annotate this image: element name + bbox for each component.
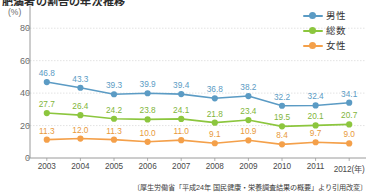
data-point-marker[interactable] (279, 141, 285, 147)
data-point-marker[interactable] (145, 139, 151, 145)
legend-label-female: 女性 (326, 41, 346, 51)
data-label: 9.1 (209, 129, 221, 139)
x-axis-tick-label: 2011 (307, 162, 325, 171)
legend-label-male: 男性 (326, 11, 346, 21)
data-point-marker[interactable] (245, 117, 251, 123)
legend-item-total[interactable]: 総数 (291, 23, 367, 38)
data-point-marker[interactable] (346, 100, 352, 106)
data-label: 26.4 (72, 101, 88, 111)
data-point-marker[interactable] (346, 121, 352, 127)
data-label: 8.4 (276, 130, 288, 140)
data-label: 23.8 (140, 105, 156, 115)
data-point-marker[interactable] (178, 91, 184, 97)
data-label: 32.2 (274, 92, 290, 102)
data-point-marker[interactable] (44, 137, 50, 143)
chart-container: 肥満者の割合の年次推移 (%) 020406080 20032004200520… (0, 0, 371, 193)
data-point-marker[interactable] (313, 102, 319, 108)
data-point-marker[interactable] (313, 139, 319, 145)
data-point-marker[interactable] (111, 91, 117, 97)
data-point-marker[interactable] (111, 137, 117, 143)
data-label: 10.9 (240, 126, 256, 136)
data-point-marker[interactable] (178, 137, 184, 143)
data-label: 9.7 (310, 128, 322, 138)
chart-legend: 男性 総数 女性 (291, 8, 367, 53)
data-label: 39.3 (106, 80, 122, 90)
x-axis-tick-label: 2003 (38, 162, 56, 171)
data-label: 36.8 (207, 84, 223, 94)
data-label: 38.2 (240, 82, 256, 92)
data-label: 43.3 (72, 74, 88, 84)
data-label: 32.4 (308, 91, 324, 101)
x-axis-tick-label: 2012(年) (334, 162, 365, 174)
data-label: 11.3 (39, 126, 55, 136)
source-citation: 〔厚生労働省「平成24年 国民健康・栄養調査結果の概要」より引用改変〕 (133, 182, 367, 192)
data-point-marker[interactable] (77, 85, 83, 91)
data-point-marker[interactable] (346, 140, 352, 146)
x-axis-tick-label: 2010 (273, 162, 291, 171)
data-label: 11.0 (173, 126, 189, 136)
legend-marker-male-icon (303, 11, 323, 20)
data-point-marker[interactable] (145, 116, 151, 122)
series-line (47, 82, 349, 106)
data-point-marker[interactable] (44, 110, 50, 116)
series-line (47, 113, 349, 126)
data-point-marker[interactable] (77, 112, 83, 118)
data-point-marker[interactable] (178, 116, 184, 122)
data-point-marker[interactable] (212, 120, 218, 126)
data-label: 24.2 (106, 105, 122, 115)
x-axis-tick-label: 2006 (138, 162, 156, 171)
data-label: 21.8 (207, 109, 223, 119)
x-axis-tick-label: 2007 (172, 162, 190, 171)
data-label: 46.8 (39, 68, 55, 78)
x-axis-tick-label: 2009 (239, 162, 257, 171)
legend-marker-female-icon (303, 41, 323, 50)
data-label: 20.7 (341, 110, 357, 120)
x-axis-tick-label: 2005 (105, 162, 123, 171)
data-label: 9.0 (343, 129, 355, 139)
data-label: 34.1 (341, 89, 357, 99)
data-point-marker[interactable] (245, 93, 251, 99)
legend-item-female[interactable]: 女性 (291, 38, 367, 53)
data-label: 20.1 (308, 111, 324, 121)
legend-item-male[interactable]: 男性 (291, 8, 367, 23)
data-point-marker[interactable] (279, 103, 285, 109)
data-label: 24.1 (173, 105, 189, 115)
data-point-marker[interactable] (212, 140, 218, 146)
data-point-marker[interactable] (111, 116, 117, 122)
data-label: 19.5 (274, 112, 290, 122)
data-point-marker[interactable] (44, 79, 50, 85)
data-label: 10.0 (140, 128, 156, 138)
data-point-marker[interactable] (279, 123, 285, 129)
x-axis-tick-label: 2008 (206, 162, 224, 171)
data-point-marker[interactable] (145, 90, 151, 96)
x-axis-tick-label: 2004 (71, 162, 89, 171)
data-point-marker[interactable] (245, 137, 251, 143)
data-label: 39.9 (140, 79, 156, 89)
series-line (47, 139, 349, 145)
data-label: 11.3 (106, 126, 122, 136)
data-label: 39.4 (173, 80, 189, 90)
data-label: 27.7 (39, 99, 55, 109)
data-point-marker[interactable] (212, 95, 218, 101)
data-label: 23.4 (240, 106, 256, 116)
data-point-marker[interactable] (77, 135, 83, 141)
legend-marker-total-icon (303, 26, 323, 35)
legend-label-total: 総数 (326, 26, 346, 36)
data-label: 12.0 (72, 125, 88, 135)
